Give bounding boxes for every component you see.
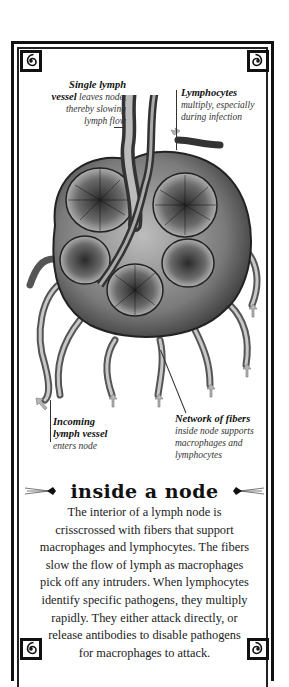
spiral-ornament-icon xyxy=(247,50,269,72)
lymph-node-illustration xyxy=(20,95,270,435)
leader-line xyxy=(50,400,51,442)
callout-efferent-vessel: Single lymph vessel leaves node, thereby… xyxy=(34,79,126,127)
callout-network-of-fibers: Network of fibers inside node supports m… xyxy=(175,413,270,461)
flourish-right-icon xyxy=(232,485,266,497)
leader-line xyxy=(114,127,124,128)
flourish-left-icon xyxy=(23,485,57,497)
callout-lymphocytes: Lymphocytes multiply, especially during … xyxy=(181,87,271,123)
section-heading: inside a node xyxy=(0,478,289,502)
leader-line xyxy=(176,90,177,150)
spiral-ornament-icon xyxy=(20,50,42,72)
callout-incoming-vessel: Incoming lymph vessel enters node xyxy=(53,416,143,452)
body-paragraph: The interior of a lymph node is crisscro… xyxy=(28,504,261,662)
